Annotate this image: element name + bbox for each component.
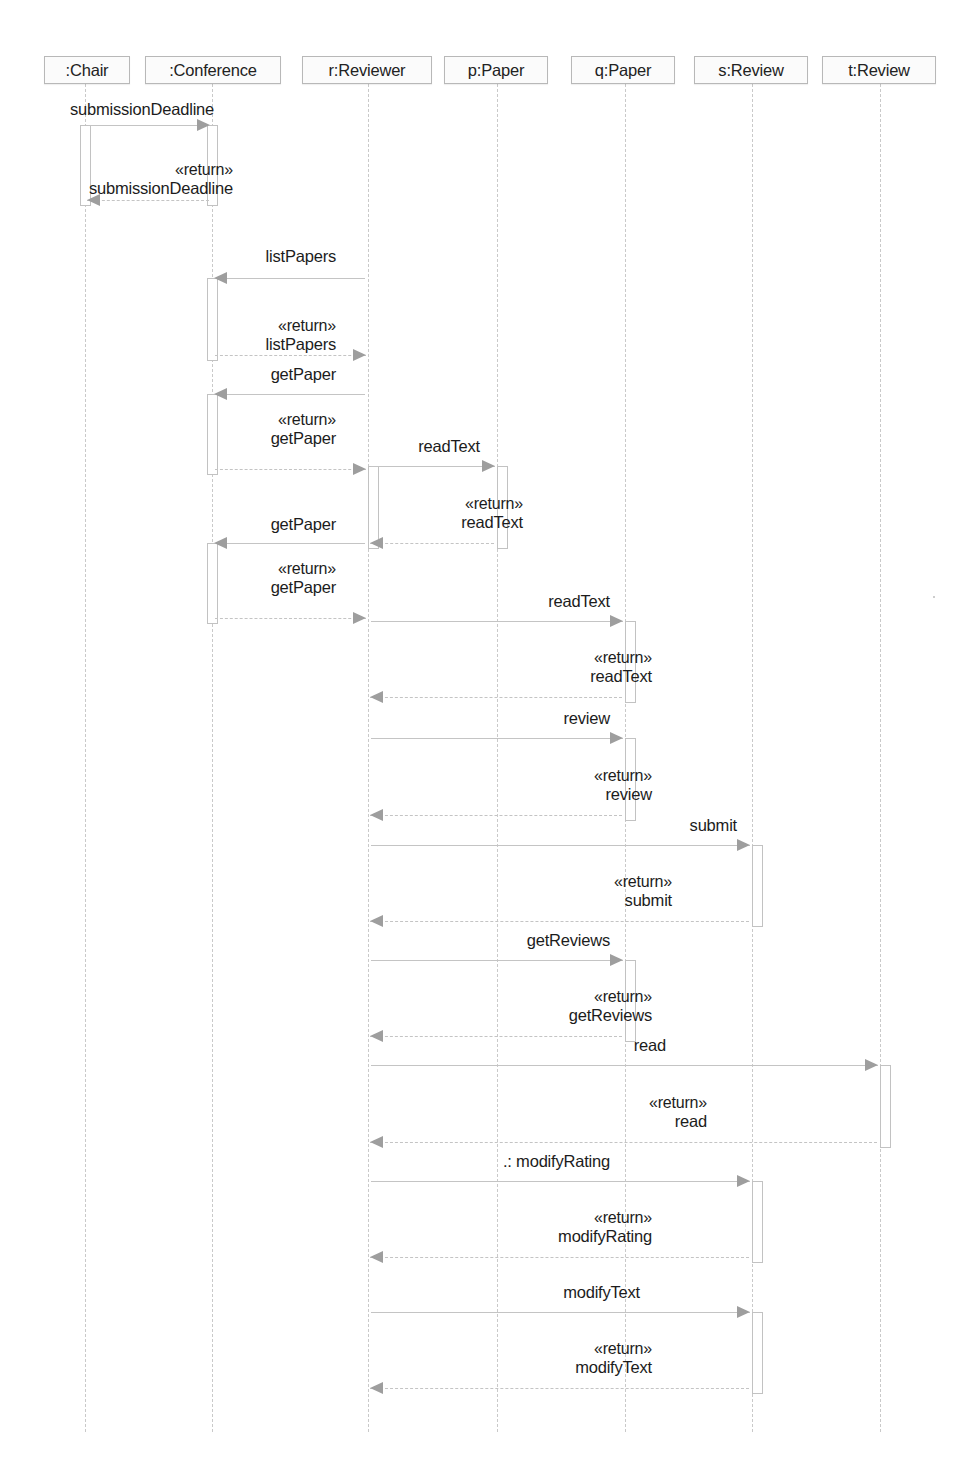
- message-name: submissionDeadline: [70, 100, 214, 118]
- arrowhead-left-22: [370, 1251, 383, 1263]
- message-name: listPapers: [266, 247, 336, 265]
- arrowhead-left-9: [214, 537, 227, 549]
- arrowhead-right-4: [353, 349, 366, 361]
- arrowhead-right-1: [197, 119, 210, 131]
- message-stereotype: «return»: [0, 1339, 652, 1358]
- activation-bar: [752, 1181, 763, 1263]
- message-name: submit: [690, 816, 737, 834]
- message-name: modifyText: [575, 1358, 652, 1376]
- message-line-8: [370, 543, 494, 544]
- message-stereotype: «return»: [0, 1208, 652, 1227]
- message-label-17: getReviews: [0, 931, 610, 950]
- message-label-12: «return»readText: [0, 648, 652, 686]
- activation-bar: [752, 845, 763, 927]
- message-name: read: [675, 1112, 707, 1130]
- message-name: getReviews: [527, 931, 610, 949]
- message-name: modifyRating: [558, 1227, 652, 1245]
- message-name: readText: [548, 592, 610, 610]
- scan-artifact-speck: [933, 596, 935, 598]
- message-label-15: submit: [0, 816, 737, 835]
- message-name: getReviews: [569, 1006, 652, 1024]
- message-name: readText: [590, 667, 652, 685]
- message-name: listPapers: [266, 335, 336, 353]
- arrowhead-right-19: [865, 1059, 878, 1071]
- arrowhead-right-13: [610, 732, 623, 744]
- message-label-2: «return»submissionDeadline: [0, 160, 233, 198]
- arrowhead-right-10: [353, 612, 366, 624]
- message-name: getPaper: [271, 515, 336, 533]
- lifeline-head-sreview[interactable]: s:Review: [694, 56, 808, 84]
- message-label-24: «return»modifyText: [0, 1339, 652, 1377]
- message-line-1: [88, 125, 210, 126]
- message-line-21: [371, 1181, 750, 1182]
- arrowhead-left-12: [370, 691, 383, 703]
- message-label-21: .: modifyRating: [0, 1152, 610, 1171]
- message-name: review: [564, 709, 610, 727]
- message-label-20: «return»read: [0, 1093, 707, 1131]
- message-line-24: [370, 1388, 749, 1389]
- activation-bar: [880, 1065, 891, 1148]
- message-stereotype: «return»: [0, 987, 652, 1006]
- message-line-9: [214, 543, 365, 544]
- message-label-7: readText: [0, 437, 480, 456]
- lifeline-head-chair[interactable]: :Chair: [44, 56, 130, 84]
- activation-bar: [752, 1312, 763, 1394]
- arrowhead-left-24: [370, 1382, 383, 1394]
- message-label-13: review: [0, 709, 610, 728]
- message-line-12: [370, 697, 622, 698]
- arrowhead-right-11: [610, 615, 623, 627]
- lifeline-head-conference[interactable]: :Conference: [145, 56, 281, 84]
- arrowhead-right-15: [737, 839, 750, 851]
- message-name: readText: [461, 513, 523, 531]
- message-label-9: getPaper: [0, 515, 336, 534]
- message-stereotype: «return»: [0, 872, 672, 891]
- arrowhead-right-17: [610, 954, 623, 966]
- arrowhead-left-8: [370, 537, 383, 549]
- message-name: read: [634, 1036, 666, 1054]
- message-line-19: [371, 1065, 878, 1066]
- message-name: modifyText: [563, 1283, 640, 1301]
- message-name: readText: [418, 437, 480, 455]
- message-line-7: [371, 466, 495, 467]
- message-label-16: «return»submit: [0, 872, 672, 910]
- lifeline-head-reviewer[interactable]: r:Reviewer: [302, 56, 432, 84]
- message-line-3: [214, 278, 365, 279]
- lifeline-head-ppaper[interactable]: p:Paper: [444, 56, 548, 84]
- message-line-20: [370, 1142, 877, 1143]
- message-label-14: «return»review: [0, 766, 652, 804]
- message-label-22: «return»modifyRating: [0, 1208, 652, 1246]
- arrowhead-left-5: [214, 388, 227, 400]
- message-label-1: submissionDeadline: [70, 100, 214, 119]
- arrowhead-left-3: [214, 272, 227, 284]
- message-stereotype: «return»: [0, 648, 652, 667]
- lifeline-treview: [880, 84, 881, 1432]
- message-stereotype: «return»: [0, 1093, 707, 1112]
- message-stereotype: «return»: [0, 316, 336, 335]
- message-stereotype: «return»: [0, 494, 523, 513]
- message-name: submissionDeadline: [89, 179, 233, 197]
- message-line-4: [215, 355, 366, 356]
- lifeline-head-treview[interactable]: t:Review: [822, 56, 936, 84]
- message-label-3: listPapers: [0, 247, 336, 266]
- message-line-2: [87, 200, 209, 201]
- message-line-22: [370, 1257, 749, 1258]
- arrowhead-right-6: [353, 463, 366, 475]
- message-name: submit: [625, 891, 672, 909]
- message-line-16: [370, 921, 749, 922]
- message-name: .: modifyRating: [503, 1152, 610, 1170]
- message-line-17: [371, 960, 623, 961]
- message-stereotype: «return»: [0, 766, 652, 785]
- message-label-5: getPaper: [0, 365, 336, 384]
- message-stereotype: «return»: [0, 410, 336, 429]
- message-label-18: «return»getReviews: [0, 987, 652, 1025]
- message-name: getPaper: [271, 365, 336, 383]
- message-line-6: [215, 469, 366, 470]
- arrowhead-right-23: [737, 1306, 750, 1318]
- lifeline-head-qpaper[interactable]: q:Paper: [571, 56, 675, 84]
- message-label-4: «return»listPapers: [0, 316, 336, 354]
- arrowhead-right-7: [482, 460, 495, 472]
- sequence-diagram-canvas: submissionDeadline«return»submissionDead…: [0, 0, 966, 1467]
- message-name: review: [606, 785, 652, 803]
- message-line-10: [215, 618, 366, 619]
- arrowhead-left-16: [370, 915, 383, 927]
